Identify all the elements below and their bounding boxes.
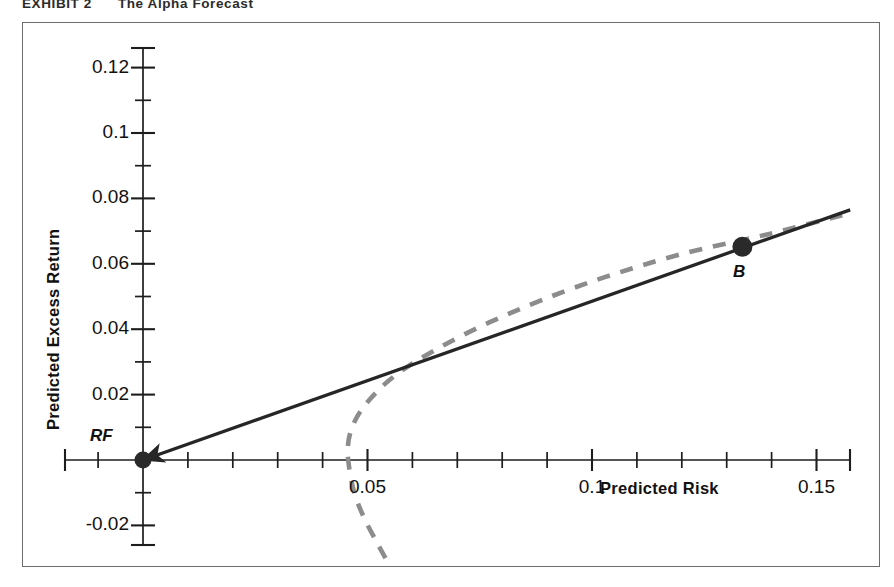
rf-point-marker [135,452,152,469]
point-b-label: B [733,262,745,282]
efficient-frontier-curve [348,213,851,558]
y-tick-label: 0.1 [39,121,129,143]
y-tick-label: 0.08 [39,186,129,208]
y-tick-label: -0.02 [39,513,129,535]
y-tick-label: 0.12 [39,56,129,78]
rf-point-label: RF [90,426,113,446]
chart-plot-area [0,0,894,587]
x-tick-label: 0.05 [323,476,413,498]
x-tick-label: 0.1 [547,476,637,498]
x-tick-label: 0.15 [772,476,862,498]
axis-ticks [65,48,850,545]
y-tick-label: 0.04 [39,317,129,339]
y-tick-label: 0.06 [39,252,129,274]
y-tick-label: 0.02 [39,383,129,405]
point-b-marker [732,237,752,257]
